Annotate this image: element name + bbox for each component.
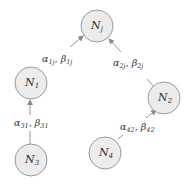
edge-label-n1-nj: α1j, β1j — [42, 53, 72, 66]
arrow-line-n2-nj-head — [109, 39, 121, 52]
node-nj: Nj — [81, 10, 113, 42]
edge-label-n3-n1: α31, β31 — [14, 117, 49, 130]
arrow-line-n1-nj-head — [70, 36, 83, 47]
network-diagram: α1j, β1j α2j, β2j α31, β31 α42, β42 Nj — [0, 0, 192, 186]
edge-label-n2-nj: α2j, β2j — [113, 57, 143, 70]
node-n4: N4 — [89, 137, 121, 169]
node-n1: N1 — [15, 67, 47, 99]
edge-label-n4-n2: α42, β42 — [120, 121, 155, 134]
node-n2: N2 — [148, 82, 180, 114]
edge-n2-to-nj: α2j, β2j — [109, 39, 153, 86]
node-n3: N3 — [15, 144, 47, 176]
arrow-line-n2-nj-tail — [147, 79, 153, 86]
edge-n1-to-nj: α1j, β1j — [40, 36, 83, 75]
arrow-line-n4-n2-tail — [118, 135, 123, 139]
edge-n4-to-n2: α42, β42 — [118, 110, 156, 139]
edge-n3-to-n1: α31, β31 — [14, 100, 49, 144]
